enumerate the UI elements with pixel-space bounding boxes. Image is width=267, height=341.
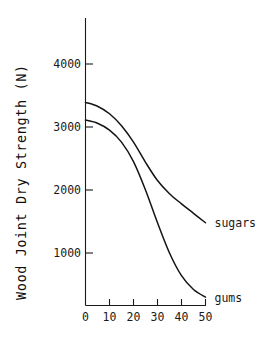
x-tick-label: 40 bbox=[175, 310, 189, 324]
y-axis-ticks bbox=[86, 64, 94, 253]
line-chart: Wood Joint Dry Strength (N) 100020003000… bbox=[0, 0, 267, 341]
y-tick-label: 1000 bbox=[53, 246, 81, 260]
x-axis-ticks bbox=[110, 299, 206, 306]
chart-container: Wood Joint Dry Strength (N) 100020003000… bbox=[0, 0, 267, 341]
series-curve-sugars bbox=[86, 102, 206, 222]
series-labels: sugarsgums bbox=[215, 216, 257, 304]
x-tick-label: 0 bbox=[82, 310, 89, 324]
y-tick-label: 4000 bbox=[53, 57, 81, 71]
y-tick-label: 2000 bbox=[53, 183, 81, 197]
y-axis-tick-labels: 1000200030004000 bbox=[53, 57, 81, 260]
x-tick-label: 50 bbox=[199, 310, 213, 324]
series-label-gums: gums bbox=[215, 291, 243, 305]
x-axis-tick-labels: 01020304050 bbox=[82, 310, 212, 324]
data-series-curves bbox=[86, 102, 206, 297]
y-tick-label: 3000 bbox=[53, 120, 81, 134]
x-tick-label: 30 bbox=[151, 310, 165, 324]
series-label-sugars: sugars bbox=[215, 216, 257, 230]
y-axis-title: Wood Joint Dry Strength (N) bbox=[13, 64, 29, 300]
x-tick-label: 20 bbox=[127, 310, 141, 324]
x-tick-label: 10 bbox=[103, 310, 117, 324]
